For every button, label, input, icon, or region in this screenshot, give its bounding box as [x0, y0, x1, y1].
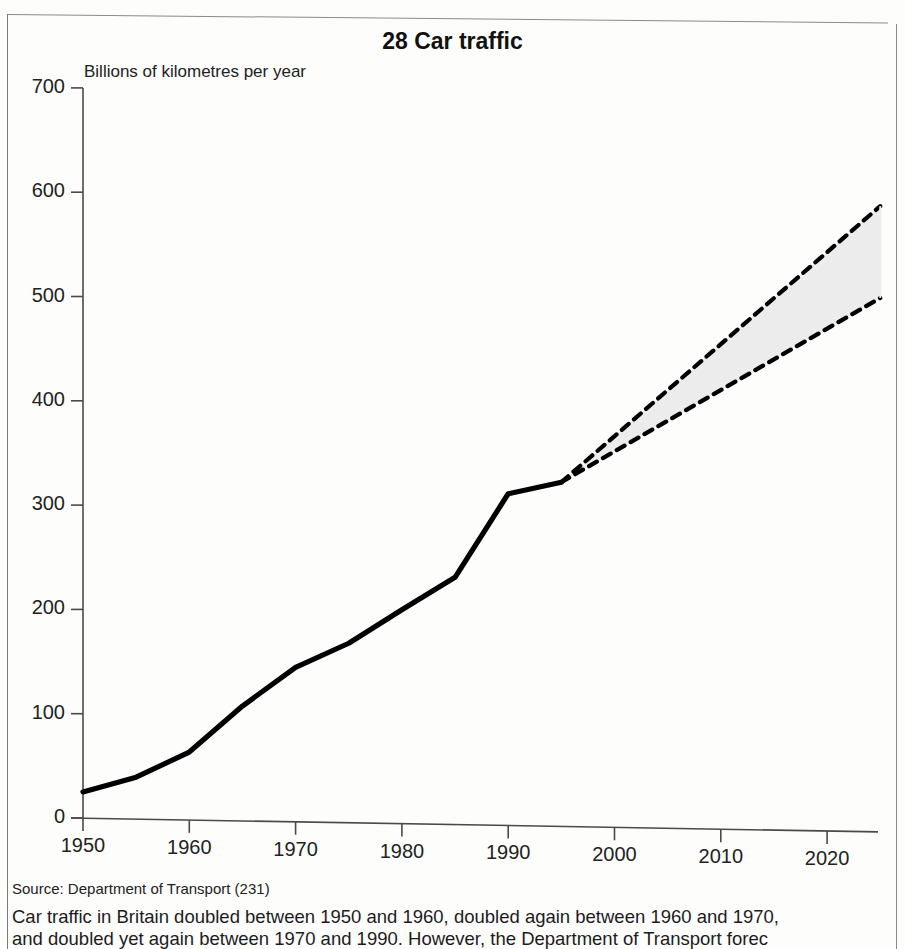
caption-line-1: Car traffic in Britain doubled between 1… [12, 906, 892, 928]
y-axis-tick-label: 400 [5, 388, 65, 411]
caption-line-2: and doubled yet again between 1970 and 1… [12, 928, 892, 949]
x-axis-tick-label: 1990 [468, 841, 548, 864]
x-axis-tick-label: 2010 [681, 845, 761, 868]
x-axis-tick-label: 2020 [787, 847, 867, 870]
y-axis-tick-label: 300 [5, 492, 65, 515]
x-axis-tick-label: 1980 [362, 840, 442, 863]
y-axis-tick-label: 0 [5, 805, 65, 828]
y-axis-tick-label: 600 [5, 179, 65, 202]
forecast-line [561, 206, 880, 482]
forecast-line [561, 298, 880, 482]
x-axis-tick-label: 1950 [43, 834, 123, 857]
x-axis-tick-label: 1970 [256, 838, 336, 861]
y-axis-tick-label: 700 [5, 75, 65, 98]
data-line [83, 482, 561, 792]
x-axis-line [71, 818, 878, 832]
chart-canvas [0, 0, 905, 870]
x-axis-tick-label: 2000 [575, 843, 655, 866]
source-note: Source: Department of Transport (231) [12, 880, 270, 897]
figure-caption: Car traffic in Britain doubled between 1… [12, 906, 892, 949]
y-axis-tick-label: 100 [5, 701, 65, 724]
y-axis-tick-label: 200 [5, 596, 65, 619]
y-axis-tick-label: 500 [5, 284, 65, 307]
x-axis-tick-label: 1960 [149, 836, 229, 859]
figure-page: 28 Car traffic Billions of kilometres pe… [0, 0, 905, 949]
